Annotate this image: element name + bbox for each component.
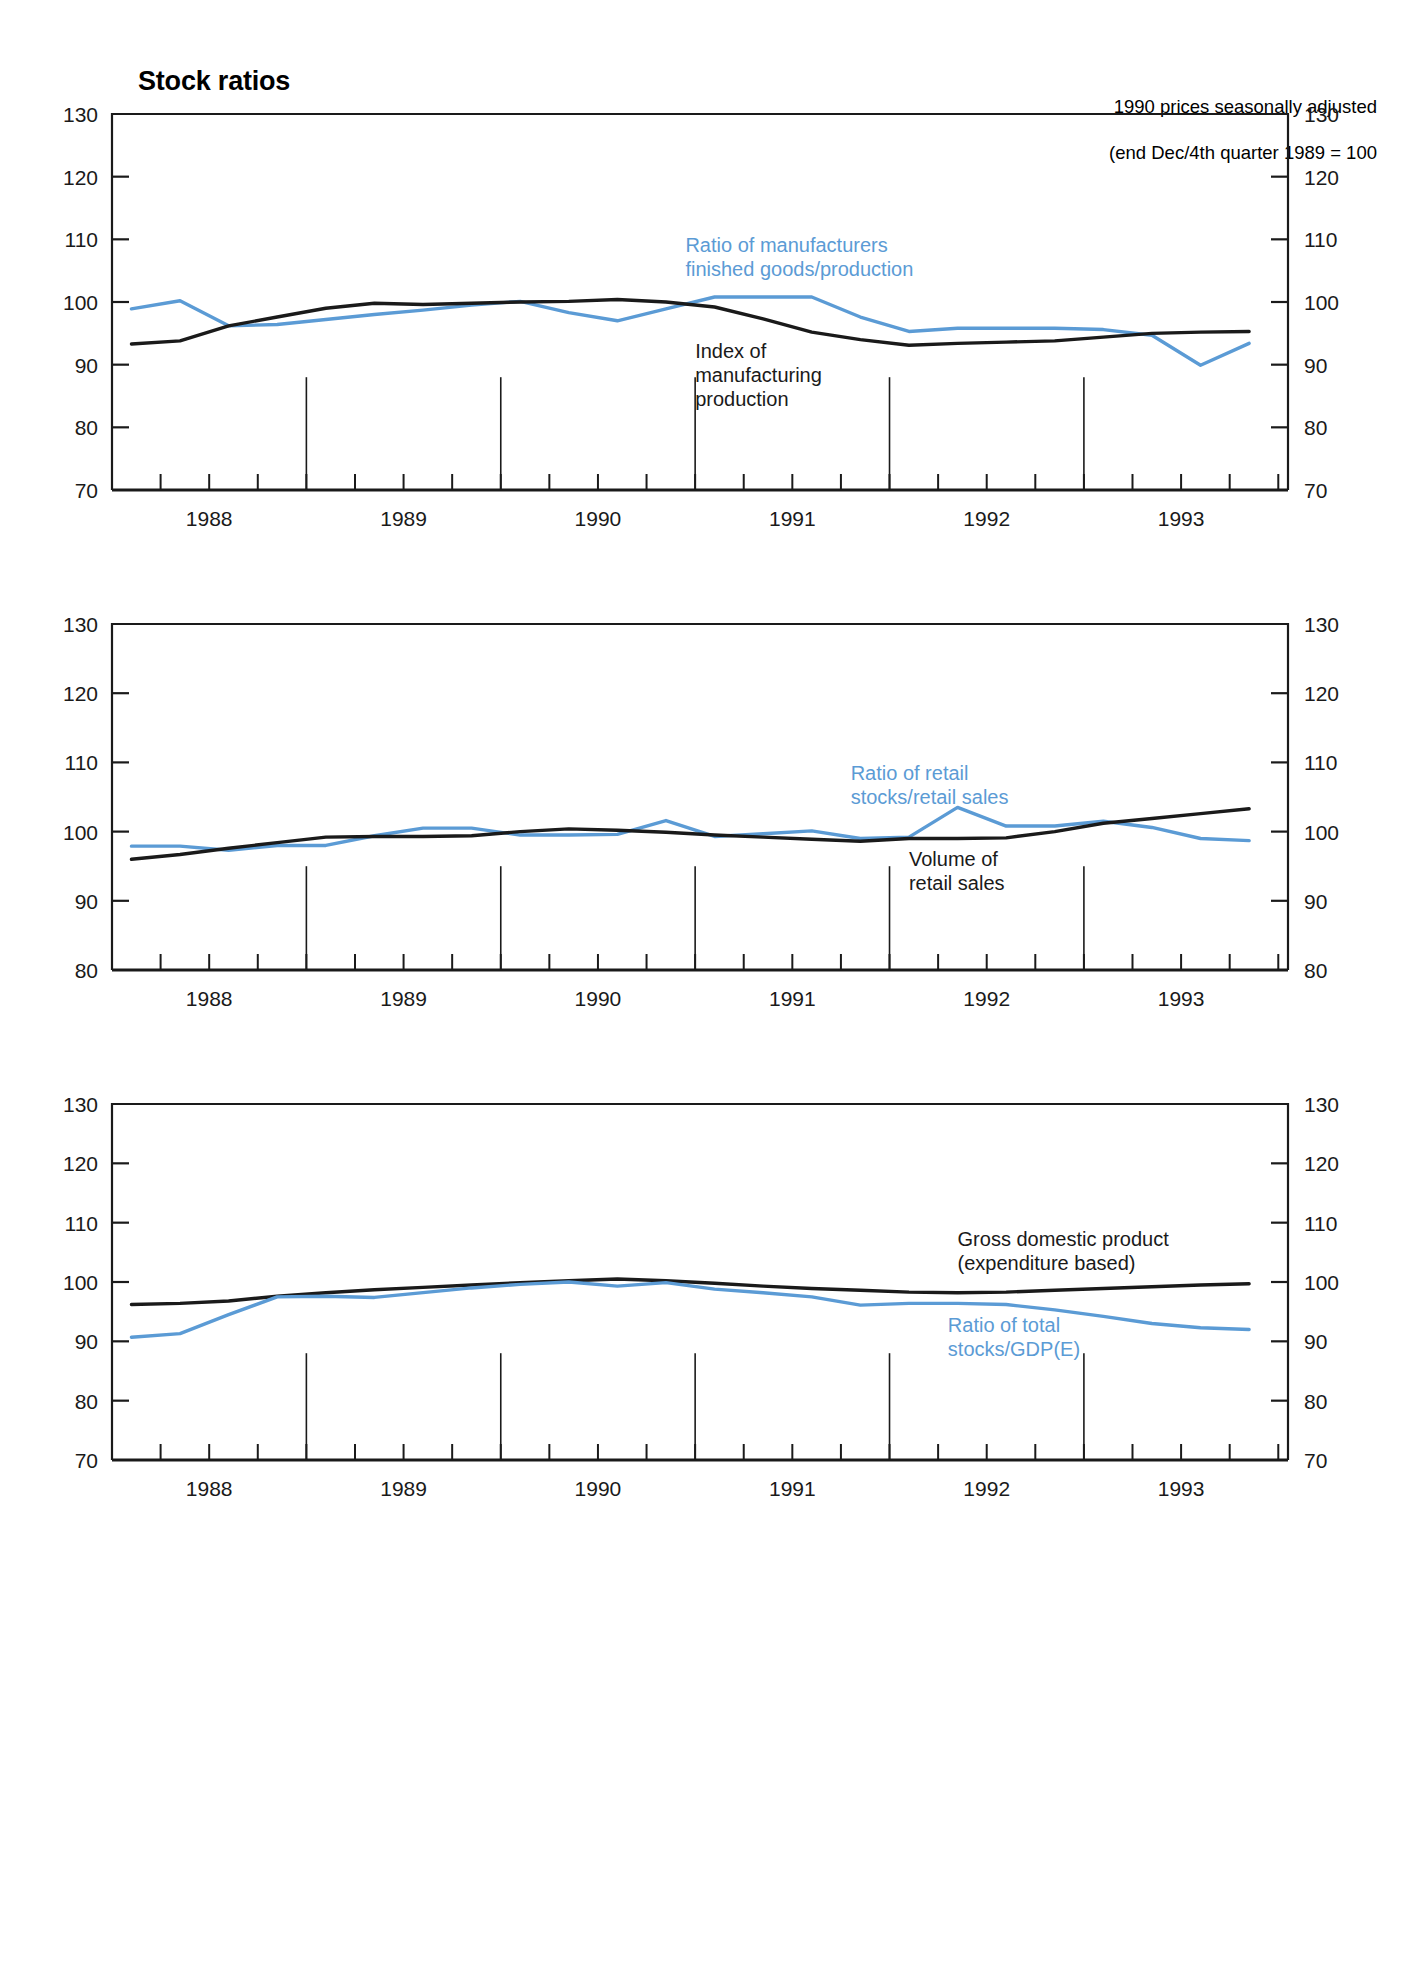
annotation-line: stocks/GDP(E) [948,1338,1080,1360]
y-tick-label-right: 130 [1304,1093,1339,1116]
annotation-line: Ratio of total [948,1314,1060,1336]
y-tick-label: 100 [63,821,98,844]
y-tick-label: 130 [63,1093,98,1116]
chart-svg: 8080909010010011011012012013013019881989… [0,610,1425,1090]
y-tick-label-right: 80 [1304,959,1327,982]
series-annotation: Volume ofretail sales [909,848,1005,894]
x-tick-label: 1992 [963,987,1010,1010]
y-tick-label: 70 [75,1449,98,1472]
y-tick-label-right: 120 [1304,1152,1339,1175]
annotation-line: retail sales [909,872,1005,894]
x-axis: 198819891990199119921993 [161,474,1279,530]
year-divider-lines [306,1353,1084,1460]
y-tick-label-right: 70 [1304,479,1327,502]
y-tick-label: 120 [63,166,98,189]
y-tick-label-right: 80 [1304,1390,1327,1413]
page-title: Stock ratios [138,66,290,97]
x-tick-label: 1988 [186,987,233,1010]
x-tick-label: 1991 [769,987,816,1010]
y-tick-label-right: 90 [1304,1330,1327,1353]
annotation-line: manufacturing [695,364,822,386]
y-tick-label-right: 110 [1304,228,1337,251]
series-line [131,807,1249,850]
x-tick-label: 1990 [575,1477,622,1500]
y-tick-label: 70 [75,479,98,502]
y-tick-label: 80 [75,416,98,439]
y-tick-label: 120 [63,682,98,705]
x-tick-label: 1988 [186,507,233,530]
y-tick-label: 130 [63,103,98,126]
y-tick-label-right: 130 [1304,103,1339,126]
y-tick-label: 80 [75,1390,98,1413]
x-tick-label: 1991 [769,1477,816,1500]
x-tick-label: 1989 [380,507,427,530]
annotation-line: finished goods/production [685,258,913,280]
chart-panel-gdp: 7070808090901001001101101201201301301988… [0,1090,1425,1580]
series-annotation: Ratio of manufacturersfinished goods/pro… [685,234,913,280]
series-annotation: Index ofmanufacturingproduction [695,340,822,410]
stock-ratios-figure: Stock ratios 1990 prices seasonally adju… [0,0,1425,1965]
y-axis: 707080809090100100110110120120130130 [63,103,1339,502]
chart-panel-retail: 8080909010010011011012012013013019881989… [0,610,1425,1090]
x-tick-label: 1993 [1158,507,1205,530]
y-tick-label-right: 110 [1304,1212,1337,1235]
y-tick-label-right: 120 [1304,166,1339,189]
y-tick-label-right: 130 [1304,613,1339,636]
x-tick-label: 1992 [963,1477,1010,1500]
annotation-line: stocks/retail sales [851,786,1009,808]
y-tick-label-right: 100 [1304,291,1339,314]
x-axis: 198819891990199119921993 [161,954,1279,1010]
y-tick-label-right: 120 [1304,682,1339,705]
y-tick-label-right: 100 [1304,1271,1339,1294]
y-tick-label-right: 70 [1304,1449,1327,1472]
y-tick-label-right: 80 [1304,416,1327,439]
x-tick-label: 1993 [1158,1477,1205,1500]
y-tick-label-right: 100 [1304,821,1339,844]
plot-frame [112,624,1288,970]
annotation-line: Gross domestic product [958,1228,1170,1250]
chart-svg: 7070808090901001001101101201201301301988… [0,1090,1425,1580]
y-axis: 80809090100100110110120120130130 [63,613,1339,982]
y-tick-label: 110 [65,228,98,251]
annotation-line: Ratio of manufacturers [685,234,887,256]
y-tick-label: 130 [63,613,98,636]
y-tick-label: 100 [63,1271,98,1294]
annotation-line: Ratio of retail [851,762,969,784]
x-tick-label: 1993 [1158,987,1205,1010]
annotation-line: production [695,388,788,410]
y-tick-label-right: 110 [1304,751,1337,774]
annotation-line: Volume of [909,848,998,870]
annotation-line: (expenditure based) [958,1252,1136,1274]
y-tick-label: 90 [75,1330,98,1353]
x-tick-label: 1990 [575,987,622,1010]
y-tick-label: 110 [65,751,98,774]
chart-panel-manufacturing: 7070808090901001001101101201201301301988… [0,100,1425,610]
x-axis: 198819891990199119921993 [161,1444,1279,1500]
x-tick-label: 1989 [380,1477,427,1500]
y-tick-label: 90 [75,354,98,377]
series-line [131,1279,1249,1305]
x-tick-label: 1991 [769,507,816,530]
annotation-line: Index of [695,340,767,362]
series-line [131,297,1249,365]
y-tick-label: 80 [75,959,98,982]
x-tick-label: 1992 [963,507,1010,530]
y-tick-label: 120 [63,1152,98,1175]
x-tick-label: 1989 [380,987,427,1010]
y-tick-label: 110 [65,1212,98,1235]
series-annotation: Ratio of totalstocks/GDP(E) [948,1314,1080,1360]
series-annotation: Gross domestic product(expenditure based… [958,1228,1170,1274]
y-tick-label-right: 90 [1304,890,1327,913]
chart-svg: 7070808090901001001101101201201301301988… [0,100,1425,610]
x-tick-label: 1990 [575,507,622,530]
y-tick-label: 100 [63,291,98,314]
y-tick-label-right: 90 [1304,354,1327,377]
series-annotation: Ratio of retailstocks/retail sales [851,762,1009,808]
y-tick-label: 90 [75,890,98,913]
x-tick-label: 1988 [186,1477,233,1500]
series-line [131,809,1249,860]
